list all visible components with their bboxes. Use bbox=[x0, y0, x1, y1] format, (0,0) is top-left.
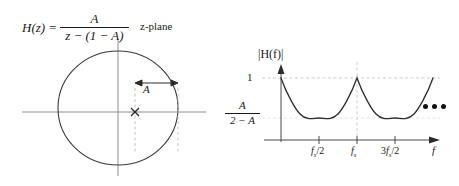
magnitude-axis-arrowhead bbox=[278, 64, 285, 74]
tick-label-fs-sub: s bbox=[354, 151, 357, 158]
ellipsis-dot bbox=[423, 104, 428, 109]
ellipsis-dot bbox=[432, 104, 437, 109]
tick-label-3fs-half: 3fs/2 bbox=[381, 146, 399, 159]
frequency-axis-arrowhead bbox=[429, 137, 440, 144]
ellipsis-dot bbox=[441, 104, 446, 109]
gain-min-fraction: A 2 − A bbox=[225, 100, 260, 126]
frequency-axis-label: f bbox=[432, 145, 435, 156]
magnitude-axis-label: |H(f)| bbox=[258, 48, 283, 60]
tick-label-fs-half-suffix: /2 bbox=[316, 145, 324, 156]
continuation-ellipsis-icon bbox=[423, 104, 446, 109]
gain-min-numerator: A bbox=[234, 100, 251, 113]
tick-label-fs-half: fs/2 bbox=[311, 146, 324, 159]
tick-label-fs: fs bbox=[351, 146, 356, 159]
gain-min-label: A 2 − A bbox=[225, 100, 260, 126]
gain-one-label: 1 bbox=[247, 72, 253, 83]
filter-figure: H(z) = A z − (1 − A) z-plane A bbox=[0, 0, 459, 186]
tick-label-3fs-half-suffix: /2 bbox=[391, 145, 399, 156]
gain-min-denominator: 2 − A bbox=[225, 114, 260, 127]
